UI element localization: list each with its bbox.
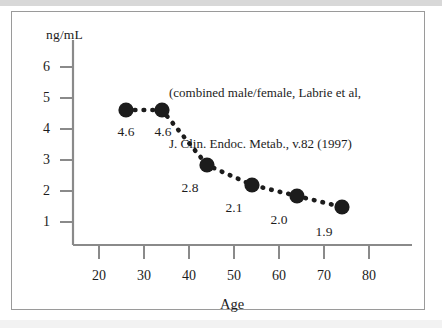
- scan-artifact-bottom: [0, 320, 442, 328]
- y-tick-label-4: 4: [34, 122, 50, 136]
- source-annotation-line-2: J. Clin. Endoc. Metab., v.82 (1997): [169, 135, 361, 152]
- data-point-label-0: 4.6: [113, 125, 139, 139]
- data-point: [289, 188, 304, 203]
- data-point: [154, 102, 169, 117]
- data-point: [118, 102, 133, 117]
- x-tick-label-40: 40: [176, 269, 202, 283]
- data-point-label-5: 1.9: [311, 225, 337, 239]
- scan-artifact-top: [0, 0, 442, 6]
- x-tick-label-50: 50: [221, 269, 247, 283]
- source-annotation: (combined male/female, Labrie et al, J. …: [169, 50, 361, 186]
- data-point-label-2: 2.8: [177, 181, 203, 195]
- x-axis-title: Age: [220, 297, 244, 312]
- figure-container: ng/mL (combined male/female, Labrie et a…: [0, 0, 442, 328]
- x-tick-label-80: 80: [356, 269, 382, 283]
- x-tick-label-30: 30: [131, 269, 157, 283]
- x-tick-label-60: 60: [266, 269, 292, 283]
- y-tick-label-1: 1: [34, 215, 50, 229]
- y-tick-label-5: 5: [34, 91, 50, 105]
- data-point-label-3: 2.1: [221, 201, 247, 215]
- y-tick-label-3: 3: [34, 153, 50, 167]
- chart-frame: ng/mL (combined male/female, Labrie et a…: [11, 11, 425, 310]
- x-tick-label-20: 20: [86, 269, 112, 283]
- y-axis-title: ng/mL: [46, 28, 83, 42]
- y-tick-label-6: 6: [34, 60, 50, 74]
- data-point: [334, 199, 349, 214]
- data-point-label-1: 4.6: [150, 125, 176, 139]
- x-tick-label-70: 70: [311, 269, 337, 283]
- source-annotation-line-1: (combined male/female, Labrie et al,: [169, 84, 361, 101]
- data-point-label-4: 2.0: [266, 213, 292, 227]
- y-tick-label-2: 2: [34, 184, 50, 198]
